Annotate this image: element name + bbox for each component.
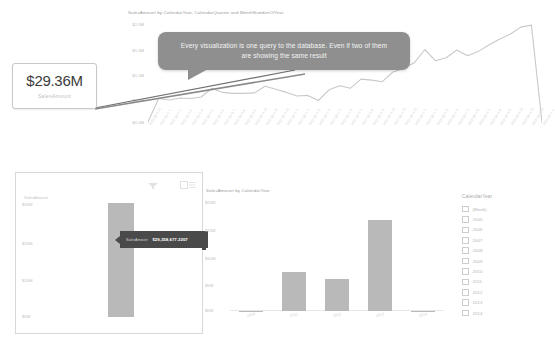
annotation-callout: Every visualization is one query to the … [158,32,410,70]
kpi-card-visual[interactable]: $29.36M SalesAmount [12,63,97,109]
line-chart-x-axis: 2010 Qtr 4 122011 Qtr 1 12011 Qtr 1 2201… [148,124,542,148]
bar-chart-bar[interactable] [368,220,392,311]
bar-chart-visual[interactable]: SalesAmount by CalendarYear $20M $15M $1… [204,188,450,333]
bar-y-tick: $20M [205,200,215,205]
slicer-checkbox[interactable] [462,258,469,265]
slicer-item-label: 2013 [473,300,483,305]
slicer-item[interactable]: 2005 [462,214,540,224]
single-bar-plot-area[interactable] [44,201,194,317]
slicer-item-label: 2014 [473,311,483,316]
bar-x-tick: 2013 [375,312,384,318]
slicer-item[interactable]: 2006 [462,225,540,235]
slicer-item-label: 2011 [473,279,482,284]
bar-y-tick: $5M [205,283,213,288]
slicer-title: CalendarYear [462,194,540,199]
slicer-checkbox[interactable] [462,289,469,296]
single-bar[interactable] [108,203,134,317]
slicer-calendaryear[interactable]: CalendarYear (Blank)20052006200720082009… [462,194,540,318]
slicer-checkbox[interactable] [462,310,469,317]
kpi-card-label: SalesAmount [38,93,71,99]
slicer-item-label: 2006 [473,227,483,232]
slicer-checkbox[interactable] [462,279,469,286]
slicer-item-label: 2009 [473,259,483,264]
annotation-callout-text: Every visualization is one query to the … [158,41,410,61]
slicer-item[interactable]: 2014 [462,308,540,318]
line-y-tick: $2.0M [132,22,144,27]
slicer-item-label: 2008 [473,248,483,253]
bar-chart-y-axis: $20M $15M $10M $5M $0M [204,200,228,311]
slicer-item[interactable]: 2011 [462,277,540,287]
slicer-item-list[interactable]: (Blank)200520062007200820092010201120122… [462,204,540,318]
slicer-item[interactable]: 2007 [462,235,540,245]
slicer-item-label: (Blank) [473,207,487,212]
bar-chart-title: SalesAmount by CalendarYear [206,188,270,193]
filter-icon[interactable] [148,176,158,194]
single-bar-tooltip-key: SalesAmount [126,238,147,242]
bar-chart-plot-area[interactable] [230,200,444,311]
slicer-checkbox[interactable] [462,206,469,213]
bar-chart-x-axis: 20102011201220132014 [230,313,444,327]
visual-header-icons[interactable] [148,176,196,194]
single-bar-tooltip: SalesAmount $29,358,677.2207 [120,231,208,248]
single-bar-tooltip-value: $29,358,677.2207 [152,237,187,242]
bar-x-tick: 2011 [290,312,299,318]
slicer-checkbox[interactable] [462,268,469,275]
bar-y-tick: $0M [205,307,213,312]
single-bar-y-tick: $30M [22,202,32,207]
slicer-item-label: 2010 [473,269,483,274]
bar-chart-bar[interactable] [282,272,306,311]
slicer-item-label: 2007 [473,238,483,243]
single-bar-y-tick: $10M [22,277,32,282]
single-bar-y-axis: $30M $20M $10M $0M [20,201,44,317]
slicer-checkbox[interactable] [462,299,469,306]
single-bar-y-tick: $20M [22,240,32,245]
line-chart-title: SalesAmount by CalendarYear, CalendarQua… [128,10,284,15]
bar-chart-bar[interactable] [325,279,349,311]
focus-mode-icon[interactable] [180,176,196,194]
single-bar-axis-title: SalesAmount [24,195,48,200]
slicer-item-label: 2005 [473,217,483,222]
kpi-card-value: $29.36M [26,73,82,88]
slicer-item[interactable]: 2010 [462,266,540,276]
slicer-item[interactable]: 2012 [462,287,540,297]
slicer-checkbox[interactable] [462,227,469,234]
slicer-item[interactable]: 2013 [462,298,540,308]
bar-x-tick: 2014 [418,312,427,318]
line-y-tick: $0.0M [132,119,144,124]
line-x-tick: 2014 Qtr 1 1 [542,108,555,126]
bar-chart-axis-marker [202,234,206,250]
bar-x-tick: 2010 [247,312,256,318]
slicer-checkbox[interactable] [462,247,469,254]
bar-y-tick: $15M [205,227,215,232]
bar-x-tick: 2012 [332,312,341,318]
slicer-item-label: 2012 [473,290,483,295]
slicer-checkbox[interactable] [462,216,469,223]
bar-y-tick: $10M [205,255,215,260]
single-bar-y-tick: $0M [22,313,30,318]
slicer-item[interactable]: 2008 [462,246,540,256]
annotation-callout-tail [188,68,210,80]
slicer-item[interactable]: 2009 [462,256,540,266]
single-bar-visual[interactable]: SalesAmount $30M $20M $10M $0M SalesAmou… [15,172,203,334]
slicer-item[interactable]: (Blank) [462,204,540,214]
slicer-checkbox[interactable] [462,237,469,244]
